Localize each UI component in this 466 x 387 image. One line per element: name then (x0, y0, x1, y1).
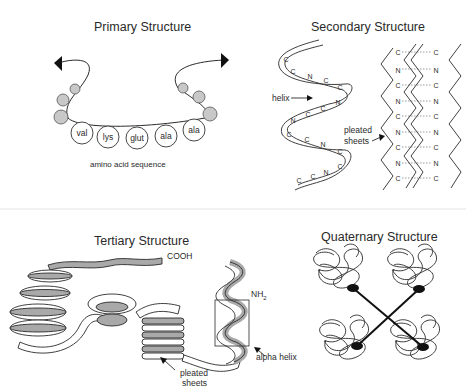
cooh-label: COOH (167, 251, 193, 261)
helix-label: helix (272, 93, 289, 103)
subunit-top-left (314, 244, 363, 288)
helix-atom: N (290, 117, 295, 124)
helix-atom: C (296, 177, 301, 184)
subunit-top-right (388, 244, 437, 288)
helix-atom: N (307, 73, 312, 80)
helix-atom: C (337, 163, 342, 170)
sheet-atom: C (395, 144, 400, 151)
tertiary-ribbon (10, 258, 249, 371)
helix-atom: C (310, 173, 315, 180)
sheet-atom: C (433, 49, 438, 56)
amino-acid-label: ala (188, 125, 200, 135)
amino-acid-label: ala (160, 131, 172, 141)
amino-acid-label: lys (103, 132, 113, 142)
nh2-subscript: 2 (263, 295, 266, 301)
subunit-bottom-right (391, 315, 440, 359)
helix-atom: N (335, 99, 340, 106)
sheet-atom: N (433, 98, 438, 105)
pleated-sheets-label-line2: sheets (344, 136, 369, 146)
helix-atom: C (290, 68, 295, 75)
sheet-atom: C (433, 175, 438, 182)
nh2-label: NH2 (251, 289, 267, 301)
quaternary-structure-drawing (300, 210, 466, 387)
helix-atom: C (305, 111, 310, 118)
sheet-atom: C (433, 113, 438, 120)
helix-pointer-arrow-icon (307, 95, 313, 101)
pleated-sheet-zigzags (381, 44, 461, 190)
sheet-atom: C (395, 82, 400, 89)
helix-atom: N (320, 141, 325, 148)
helix-atom: C (337, 84, 342, 91)
helix-atom: N (323, 169, 328, 176)
sheet-atom: C (433, 144, 438, 151)
sheet-atom: N (395, 67, 400, 74)
pleated-sheets-label-line1: pleated (344, 125, 372, 135)
right-arrowhead-icon (221, 53, 229, 68)
sheet-atom: N (395, 98, 400, 105)
sheet-atom: C (395, 113, 400, 120)
helix-atom: C (304, 136, 309, 143)
sheet-atom: C (395, 175, 400, 182)
sheets-pointer-arrow-icon (379, 134, 385, 141)
sheet-atom: N (433, 160, 438, 167)
secondary-structure-panel: Secondary Structure C C N C C N C C N C … (233, 0, 466, 200)
nh2-text: NH (251, 289, 263, 299)
helix-atom: C (323, 77, 328, 84)
amino-acid-label: val (77, 128, 88, 138)
subunit-bottom-left (320, 315, 369, 359)
helix-atom: C (286, 131, 291, 138)
alpha-helix-label: alpha helix (256, 352, 297, 362)
tertiary-structure-panel: Tertiary Structure (0, 210, 300, 387)
sheet-atom: N (433, 67, 438, 74)
sheet-atom: C (433, 82, 438, 89)
amino-acid-label: glut (130, 133, 144, 143)
tertiary-sheets-label-line2: sheets (182, 378, 207, 387)
sheet-atom: N (395, 160, 400, 167)
helix-atom: C (337, 148, 342, 155)
amino-acid-sequence-caption: amino acid sequence (90, 160, 166, 169)
sheet-atom: C (395, 49, 400, 56)
left-arrowhead-icon (54, 56, 62, 71)
secondary-structure-drawing: C C N C C N C C N C C N C C C N C (233, 0, 466, 200)
grey-beads (54, 83, 217, 124)
quaternary-structure-panel: Quaternary Structure (300, 210, 466, 387)
sheet-atom: N (395, 129, 400, 136)
sheet-atom: N (433, 129, 438, 136)
helix-atom: C (283, 56, 288, 63)
tertiary-sheets-label-line1: pleated (180, 368, 208, 378)
helix-atom: C (320, 105, 325, 112)
primary-structure-panel: Primary Structure val lys glut ala (0, 0, 233, 200)
primary-structure-drawing: val lys glut ala ala (0, 0, 233, 200)
